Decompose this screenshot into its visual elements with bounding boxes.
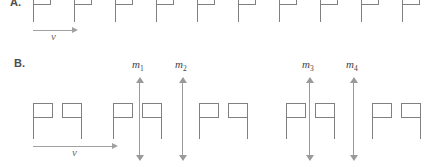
flag-banner (74, 0, 92, 5)
measurement-arrow-m3 (305, 78, 314, 160)
flag-banner (62, 103, 82, 118)
arrow-head-down-icon (136, 155, 144, 161)
measurement-label-m2: m2 (175, 58, 187, 73)
measurement-label-m1: m1 (132, 58, 144, 73)
flag-banner (33, 103, 53, 118)
flag-banner (372, 103, 392, 118)
panel-a-velocity-label: v (51, 30, 56, 42)
measurement-arrow-m2 (178, 78, 187, 160)
flag-banner (315, 103, 335, 118)
arrow-head-right-icon (112, 143, 118, 149)
flag-banner (238, 0, 256, 5)
measurement-label-subscript: 2 (183, 64, 187, 73)
flag-banner (199, 103, 219, 118)
measurement-label-base: m (346, 58, 354, 70)
measurement-arrow-m1 (135, 78, 144, 160)
flag-banner (197, 0, 215, 5)
flag-banner (279, 0, 297, 5)
arrow-shaft (353, 78, 354, 160)
flag-banner (401, 103, 421, 118)
measurement-label-subscript: 3 (310, 64, 314, 73)
flag-banner (402, 0, 420, 5)
flag-banner (33, 0, 51, 5)
measurement-label-subscript: 1 (140, 64, 144, 73)
panel-b-velocity-label: v (72, 146, 77, 158)
measurement-label-m3: m3 (302, 58, 314, 73)
measurement-label-base: m (132, 58, 140, 70)
arrow-shaft (139, 78, 140, 160)
panel-a-label: A. (10, 0, 21, 8)
measurement-label-base: m (175, 58, 183, 70)
panel-b-label: B. (14, 57, 25, 69)
arrow-head-up-icon (306, 77, 314, 83)
arrow-shaft (182, 78, 183, 160)
arrow-head-right-icon (72, 27, 78, 33)
arrow-head-down-icon (350, 155, 358, 161)
flag-banner (320, 0, 338, 5)
measurement-arrow-m4 (349, 78, 358, 160)
flag-banner (142, 103, 162, 118)
flag-banner (113, 103, 133, 118)
flag-banner (228, 103, 248, 118)
arrow-head-up-icon (350, 77, 358, 83)
measurement-label-subscript: 4 (354, 64, 358, 73)
arrow-head-down-icon (179, 155, 187, 161)
flag-banner (286, 103, 306, 118)
flag-banner (115, 0, 133, 5)
arrow-head-up-icon (136, 77, 144, 83)
measurement-label-base: m (302, 58, 310, 70)
measurement-label-m4: m4 (346, 58, 358, 73)
flag-banner (156, 0, 174, 5)
flag-banner (361, 0, 379, 5)
arrow-head-up-icon (179, 77, 187, 83)
physics-flag-diagram: A. v B. m1m2m3m4 v (0, 0, 442, 167)
arrow-shaft (309, 78, 310, 160)
arrow-head-down-icon (306, 155, 314, 161)
